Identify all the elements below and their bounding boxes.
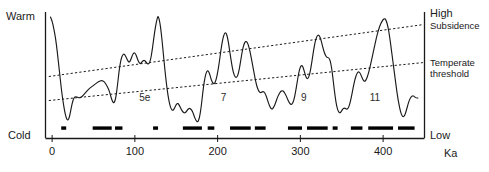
x-tick-label: 100 xyxy=(126,145,144,157)
axis-label-cold: Cold xyxy=(8,129,31,141)
interglacial-bar xyxy=(351,126,363,129)
annotation-threshold: threshold xyxy=(430,68,469,79)
axis-label-warm: Warm xyxy=(6,10,35,22)
trend-line-subsidence xyxy=(49,25,423,77)
interglacial-bar xyxy=(333,126,338,129)
interglacial-bar xyxy=(208,126,215,129)
x-tick-label: 0 xyxy=(49,145,55,157)
chart-canvas xyxy=(0,0,489,172)
interglacial-bar xyxy=(368,126,393,129)
interglacial-bar xyxy=(307,126,328,129)
interglacial-bar xyxy=(93,126,112,129)
annotation-temperate: Temperate xyxy=(430,57,475,68)
mis-stage-label: 7 xyxy=(221,92,227,103)
interglacial-bar xyxy=(288,126,302,129)
paleoclimate-sea-level-figure: Warm Cold High Subsidence Temperate thre… xyxy=(0,0,489,172)
x-tick-label: 400 xyxy=(374,145,392,157)
interglacial-bar xyxy=(398,126,415,129)
x-tick-label: 300 xyxy=(291,145,309,157)
interglacial-bar xyxy=(230,126,251,129)
x-tick-label: 200 xyxy=(208,145,226,157)
interglacial-bar xyxy=(61,126,66,129)
interglacial-marker-bars xyxy=(61,126,414,129)
axis-label-low: Low xyxy=(430,129,450,141)
annotation-subsidence: Subsidence xyxy=(430,20,480,31)
interglacial-bar xyxy=(183,126,202,129)
trend-line-temperate-threshold xyxy=(49,63,423,101)
interglacial-bar xyxy=(153,126,158,129)
interglacial-bar xyxy=(115,126,122,129)
x-axis-unit-label: Ka xyxy=(444,147,457,159)
mis-stage-label: 11 xyxy=(370,92,380,103)
mis-stage-label: 5e xyxy=(139,92,150,103)
trend-lines-group xyxy=(49,25,423,101)
mis-stage-label: 9 xyxy=(301,92,307,103)
interglacial-bar xyxy=(255,126,266,129)
axis-label-high: High xyxy=(430,7,453,19)
